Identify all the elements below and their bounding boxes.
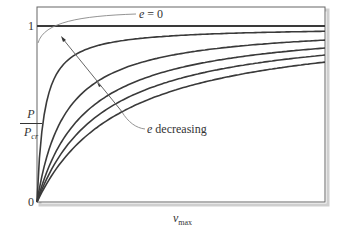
plot-area (0, 0, 343, 231)
y-tick-1: 1 (28, 20, 34, 32)
y-tick-0: 0 (28, 196, 34, 208)
y-axis-label: P Pcr (20, 107, 42, 141)
plot-frame (37, 7, 325, 202)
annotation-e-zero: e = 0 (139, 8, 163, 20)
x-axis-label: vmax (173, 212, 192, 227)
annotation-e-decreasing: e decreasing (147, 123, 207, 135)
